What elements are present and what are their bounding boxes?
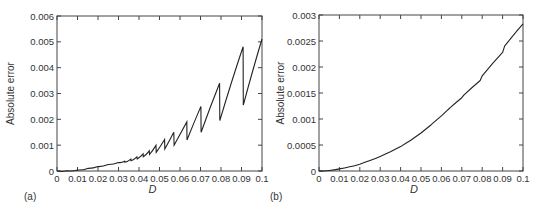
panel-a-ticks: 00.010.020.030.040.050.060.070.080.090.1… <box>30 11 268 185</box>
chart-figure: 00.010.020.030.040.050.060.070.080.090.1… <box>0 0 551 212</box>
x-tick-label: 0.1 <box>516 173 529 184</box>
x-tick-label: 0.04 <box>391 173 410 184</box>
y-tick-label: 0.003 <box>292 10 316 21</box>
x-tick-label: 0.08 <box>212 173 231 184</box>
y-tick-label: 0.001 <box>292 114 316 125</box>
x-tick-label: 0.02 <box>89 173 108 184</box>
y-tick-label: 0.004 <box>30 62 54 73</box>
x-tick-label: 0.07 <box>191 173 210 184</box>
x-tick-label: 0.01 <box>68 173 87 184</box>
panel-a-curve <box>57 39 262 171</box>
x-tick-label: 0.07 <box>453 173 472 184</box>
x-tick-label: 0.08 <box>473 173 492 184</box>
panel-b-ticks: 00.010.020.030.040.050.060.070.080.090.1… <box>287 10 530 185</box>
y-tick-label: 0 <box>311 166 316 177</box>
y-tick-label: 0.006 <box>30 11 54 22</box>
panel-a-chart: 00.010.020.030.040.050.060.070.080.090.1… <box>5 11 269 203</box>
x-tick-label: 0.03 <box>109 173 128 184</box>
y-tick-label: 0.005 <box>30 36 54 47</box>
x-tick-label: 0.1 <box>255 173 268 184</box>
y-tick-label: 0.003 <box>30 88 54 99</box>
y-tick-label: 0.002 <box>292 62 316 73</box>
panel-b-x-axis-label: D <box>410 183 418 195</box>
panel-b-frame <box>319 15 523 171</box>
x-tick-label: 0 <box>316 173 321 184</box>
y-tick-label: 0.002 <box>30 114 54 125</box>
x-tick-label: 0.09 <box>493 173 512 184</box>
x-tick-label: 0.02 <box>351 173 370 184</box>
panel-a-label: (a) <box>24 191 36 202</box>
y-tick-label: 0.001 <box>30 140 54 151</box>
panel-a-y-axis-label: Absolute error <box>5 61 16 124</box>
panel-b-curve <box>319 24 523 171</box>
x-tick-label: 0.03 <box>371 173 390 184</box>
y-tick-label: 0 <box>49 166 54 177</box>
x-tick-label: 0.06 <box>171 173 190 184</box>
panel-b-label: (b) <box>270 191 282 202</box>
x-tick-label: 0 <box>54 173 59 184</box>
x-tick-label: 0.04 <box>130 173 149 184</box>
y-tick-label: 0.0015 <box>287 88 316 99</box>
x-tick-label: 0.09 <box>232 173 251 184</box>
x-tick-label: 0.01 <box>330 173 349 184</box>
y-tick-label: 0.0005 <box>287 140 316 151</box>
panel-b-chart: 00.010.020.030.040.050.060.070.080.090.1… <box>270 10 530 203</box>
y-tick-label: 0.0025 <box>287 36 316 47</box>
panel-a-x-axis-label: D <box>149 183 157 195</box>
panel-b-y-axis-label: Absolute error <box>275 61 286 124</box>
x-tick-label: 0.06 <box>432 173 451 184</box>
